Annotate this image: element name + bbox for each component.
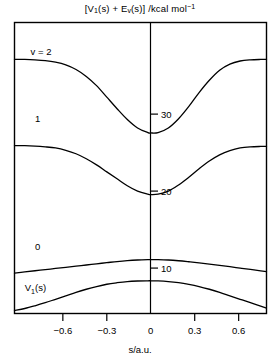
x-tick-label: 0.3 — [188, 325, 201, 336]
plot-frame — [15, 23, 267, 314]
plot-area: 102030 −0.6−0.300.30.6 v = 210V1(s) — [0, 0, 280, 362]
curve-v-1 — [15, 146, 267, 195]
figure-container: [V1(s) + Ev(s)] /kcal mol−1 102030 −0.6−… — [0, 0, 280, 362]
x-axis-label: s/a.u. — [0, 344, 280, 355]
y-tick-label: 30 — [161, 109, 172, 120]
curve-label-v-2: v = 2 — [31, 46, 52, 57]
x-tick-label: −0.3 — [97, 325, 116, 336]
y-tick-label: 20 — [161, 186, 172, 197]
x-tick-label: 0.6 — [232, 325, 245, 336]
y-tick-label: 10 — [161, 263, 172, 274]
curve-v1-s- — [15, 281, 267, 311]
curve-label-v1-s-: V1(s) — [25, 282, 46, 295]
x-tick-label: −0.6 — [53, 325, 72, 336]
curve-label-group: v = 210V1(s) — [25, 46, 52, 295]
x-tick-label: 0 — [148, 325, 153, 336]
curve-v-2 — [15, 59, 267, 133]
x-axis-ticks: −0.6−0.300.30.6 — [53, 314, 245, 337]
curve-group — [15, 59, 267, 310]
curve-label-v-0: 0 — [35, 241, 40, 252]
curve-v-0 — [15, 260, 267, 273]
curve-label-v-1: 1 — [35, 113, 40, 124]
